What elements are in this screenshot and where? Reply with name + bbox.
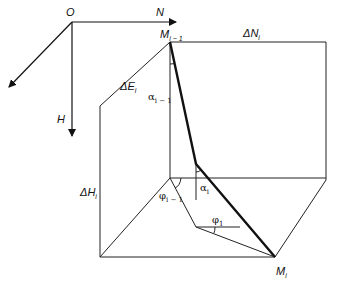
alpha-i-label: αi xyxy=(200,182,210,196)
delta-east-label: ΔEi xyxy=(119,80,137,94)
north-label: N xyxy=(156,6,164,18)
phi-prev-label: φi − 1 xyxy=(159,190,183,204)
delta-north-label: ΔNi xyxy=(242,27,260,41)
end-point-label: Mi xyxy=(276,265,287,279)
delta-depth-label: ΔHi xyxy=(79,186,97,200)
box-bottom-right-diagonal xyxy=(275,180,326,257)
phi-1-label: φ1 xyxy=(212,214,223,228)
horizontal-projection-path xyxy=(170,178,275,257)
origin-label: O xyxy=(66,6,75,18)
alpha-prev-label: αi − 1 xyxy=(148,91,172,105)
east-axis-arrow xyxy=(9,22,72,87)
depth-label: H xyxy=(57,113,65,125)
coordinate-axes xyxy=(9,22,176,136)
trajectory-diagram: O N H Mi − 1 Mi ΔNi ΔEi ΔHi αi − 1 αi φi… xyxy=(0,0,351,286)
phi-prev-arc xyxy=(175,178,181,188)
phi-1-arc xyxy=(214,227,215,233)
start-point-label: Mi − 1 xyxy=(160,28,183,42)
